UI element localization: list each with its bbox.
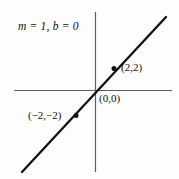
linear-function-graph: m = 1, b = 0 (2,2) (0,0) (−2,−2) <box>0 0 179 179</box>
data-point-marker-2-2 <box>112 66 117 71</box>
point-label-origin: (0,0) <box>99 93 120 104</box>
line-y-equals-x <box>22 17 166 172</box>
data-point-marker-neg2-neg2 <box>74 113 79 118</box>
point-label-2-2: (2,2) <box>121 62 142 73</box>
equation-annotation: m = 1, b = 0 <box>18 21 79 33</box>
point-label-neg2-neg2: (−2,−2) <box>28 110 61 121</box>
